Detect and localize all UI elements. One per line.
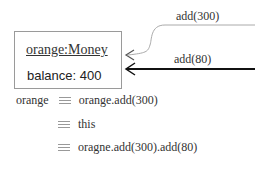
- equivalence-text: this: [78, 117, 95, 132]
- identical-to-icon: [58, 143, 70, 152]
- equivalence-row-3: oragne.add(300).add(80): [58, 140, 197, 155]
- equivalence-lhs: orange: [16, 93, 49, 108]
- equivalence-row-2: this: [58, 117, 95, 132]
- equivalence-row-1: orange orange.add(300): [16, 93, 158, 108]
- equivalence-text: oragne.add(300).add(80): [78, 140, 197, 155]
- equivalence-text: orange.add(300): [79, 93, 158, 108]
- identical-to-icon: [58, 120, 70, 129]
- message-arrow-add-300: [128, 25, 255, 55]
- message-label-add-300: add(300): [176, 9, 219, 24]
- identical-to-icon: [59, 96, 71, 105]
- message-label-add-80: add(80): [174, 52, 211, 67]
